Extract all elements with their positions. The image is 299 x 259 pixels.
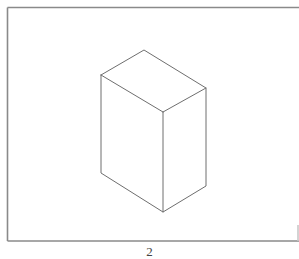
figure-label: 2 <box>0 244 299 259</box>
rectangular-prism <box>101 50 206 212</box>
box-diagram <box>0 0 299 259</box>
